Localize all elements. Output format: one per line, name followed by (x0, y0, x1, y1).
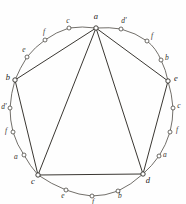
arc-point-marker-5 (157, 154, 161, 158)
arc-point-marker-6 (116, 189, 120, 193)
point-marker-group (8, 26, 175, 198)
arc-point-marker-11 (8, 106, 12, 110)
arc-point-marker-0 (119, 27, 123, 31)
arc-d-to-c (38, 174, 143, 196)
chord-d-c (38, 174, 143, 175)
chord-a-e (96, 28, 168, 81)
circle-arc-group (10, 27, 173, 196)
diag-a-c (38, 28, 96, 175)
arc-point-marker-1 (145, 39, 149, 43)
pentagon-circle-diagram (0, 0, 186, 204)
arc-point-marker-12 (25, 55, 29, 59)
pentagon-diagonal-group (38, 28, 143, 175)
chord-c-b (15, 80, 38, 175)
vertex-marker-c-3 (36, 173, 40, 177)
pentagon-side-group (15, 28, 168, 175)
vertex-marker-b-4 (13, 78, 17, 82)
arc-point-marker-9 (22, 153, 26, 157)
arc-point-marker-8 (64, 188, 68, 192)
arc-point-marker-4 (168, 130, 172, 134)
arc-c-to-b (10, 80, 38, 175)
vertex-marker-e-1 (166, 79, 170, 83)
arc-point-marker-3 (171, 106, 175, 110)
arc-point-marker-13 (43, 38, 47, 42)
arc-point-marker-14 (67, 26, 71, 30)
diag-a-d (96, 28, 143, 174)
vertex-marker-d-2 (141, 172, 145, 176)
arc-point-marker-10 (11, 130, 15, 134)
arc-e-to-d (143, 81, 173, 174)
chord-b-a (15, 28, 96, 80)
arc-point-marker-2 (159, 58, 163, 62)
vertex-marker-a-0 (94, 26, 98, 30)
figure-canvas: d'fbcfabfeafd'efcaedcb (0, 0, 186, 204)
arc-point-marker-7 (90, 194, 94, 198)
